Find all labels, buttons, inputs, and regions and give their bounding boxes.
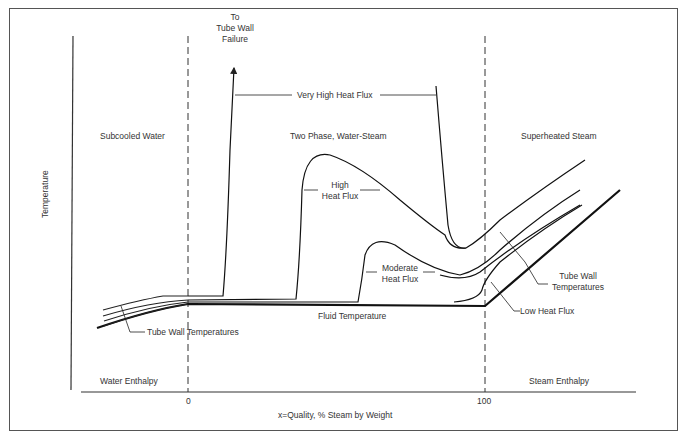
x-tick-0: 0 (186, 396, 191, 406)
fluid-temperature-label: Fluid Temperature (318, 311, 386, 321)
steam-enthalpy-label: Steam Enthalpy (529, 376, 589, 386)
to-failure-label-3: Failure (205, 34, 265, 44)
diagram-canvas (0, 0, 687, 438)
x-axis-label: x=Quality, % Steam by Weight (278, 410, 392, 420)
to-failure-label-2: Tube Wall (205, 23, 265, 33)
low-heat-flux-label: Low Heat Flux (520, 306, 574, 316)
y-axis (71, 36, 73, 390)
two-phase-label: Two Phase, Water-Steam (290, 131, 387, 141)
water-enthalpy-label: Water Enthalpy (100, 376, 158, 386)
subcooled-water-label: Subcooled Water (100, 131, 165, 141)
moderate-heat-flux-label-1: Moderate (376, 263, 424, 273)
tube-wall-right-label-1: Tube Wall (548, 271, 608, 281)
y-axis-label: Temperature (40, 170, 50, 218)
tube-wall-right-label-2: Temperatures (548, 282, 608, 292)
high-heat-flux-label-2: Heat Flux (318, 191, 362, 201)
tube-wall-left-label: Tube Wall Temperatures (147, 327, 239, 337)
to-failure-label-1: To (215, 12, 255, 22)
very-high-heat-flux-curve (188, 68, 234, 296)
superheated-steam-label: Superheated Steam (521, 131, 597, 141)
high-heat-flux-label-1: High (318, 180, 362, 190)
moderate-heat-flux-label-2: Heat Flux (376, 274, 424, 284)
x-tick-100: 100 (477, 396, 491, 406)
very-high-heat-flux-label: Very High Heat Flux (297, 90, 373, 100)
